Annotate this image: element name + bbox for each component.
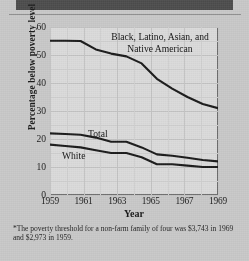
x-tick-label: 1969 [196,196,240,206]
series-label-minority-line1: Black, Latino, Asian, and [111,31,209,42]
y-tick-label: 50 [24,49,46,60]
series-label-total: Total [88,128,108,139]
y-tick-label: 20 [24,133,46,144]
y-tick-label: 10 [24,161,46,172]
top-hairline-divider [9,14,241,15]
top-dark-band [16,0,233,10]
footnote-text: *The poverty threshold for a non-farm fa… [13,224,237,243]
figure-container: Percentage below poverty level 010203040… [0,0,249,261]
series-label-minority: Black, Latino, Asian, and Native America… [96,31,224,54]
y-tick-label: 60 [24,21,46,32]
y-tick-label: 40 [24,77,46,88]
series-label-white: White [62,150,85,161]
series-label-minority-line2: Native American [127,43,192,54]
y-tick-label: 30 [24,105,46,116]
y-axis-ticks: 0102030405060 [22,27,46,195]
x-axis-label: Year [50,208,218,219]
